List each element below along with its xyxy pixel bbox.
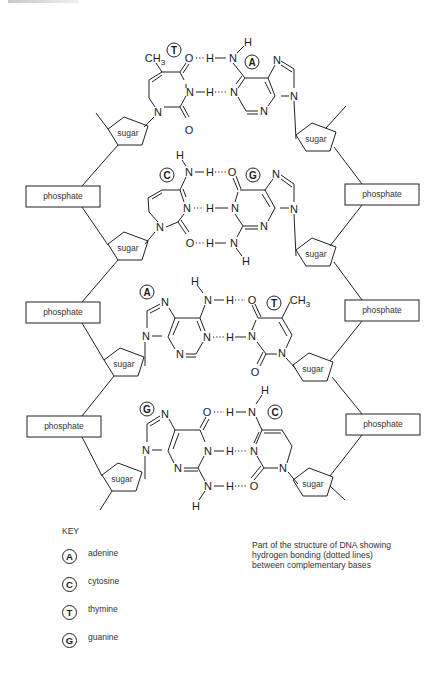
double-bond: [152, 75, 162, 82]
hydrogen-atom: H: [206, 202, 214, 214]
strand-link: [82, 260, 118, 302]
strand-link: [330, 435, 362, 476]
hydrogen-atom: H: [226, 406, 234, 418]
thymine-badge-icon: T: [267, 296, 281, 310]
bond-line: [268, 65, 275, 78]
bond-line: [281, 175, 294, 184]
badge-letter: C: [163, 170, 170, 181]
strand-stub: [330, 486, 345, 500]
bond-line: [265, 190, 275, 208]
methyl-group: CH3: [145, 52, 166, 67]
sugar-left-2: sugar: [108, 232, 148, 260]
oxygen-atom: O: [186, 237, 195, 249]
strand-stub: [326, 106, 346, 128]
key-label: cytosine: [88, 576, 119, 586]
cytosine-n3: N: [183, 202, 191, 214]
sugar-right-4: sugar: [293, 468, 333, 496]
strand-stub: [100, 491, 112, 510]
adenine-n9: N: [142, 330, 150, 342]
key-item-thymine: T thymine: [62, 598, 119, 626]
badge-letter: T: [171, 45, 177, 56]
guanine-n9: N: [290, 203, 298, 215]
glycosidic-bond: [288, 472, 298, 484]
cytosine-n3: N: [250, 445, 258, 457]
phosphate-left-1: phosphate: [26, 186, 100, 207]
hydrogen-atom: H: [192, 500, 200, 512]
base-pair-2: CGHNHONNOHHNHNNNN: [145, 149, 298, 267]
sugar-right-3: sugar: [293, 353, 333, 381]
badge-letter: G: [143, 404, 151, 415]
key-legend: KEY A adenine C cytosine T thymine G gua…: [62, 526, 119, 654]
sugar-left-4: sugar: [102, 463, 142, 491]
cytosine-n1: N: [156, 221, 164, 233]
amine-nitrogen: N: [248, 406, 256, 418]
adenine-n3: N: [176, 348, 184, 360]
glycosidic-bond: [145, 232, 155, 244]
hydrogen-atom: H: [176, 149, 184, 161]
n1-atom: N: [154, 106, 162, 118]
bond-line: [268, 208, 275, 221]
strand-link: [330, 205, 362, 246]
hydrogen-atom: H: [191, 275, 199, 287]
bond-line: [166, 222, 178, 227]
base-pair-3: ATHNHONNNNHNCH3NO: [140, 275, 311, 378]
bond-line: [168, 318, 175, 337]
methyl-group: CH3: [290, 294, 311, 309]
bond-line: [268, 96, 275, 106]
phosphate-label: phosphate: [43, 191, 83, 201]
bond-line: [235, 192, 238, 202]
cytosine-badge-icon: C: [268, 405, 282, 419]
carbonyl-bond: [254, 468, 264, 480]
strand-link: [330, 321, 362, 361]
oxygen-atom: O: [203, 406, 212, 418]
guanine-n7: N: [272, 168, 280, 180]
sugar-label: sugar: [305, 134, 326, 144]
bond-line: [147, 304, 160, 311]
cytosine-ring: [148, 177, 186, 222]
bond-line: [282, 430, 292, 446]
adenine-n3: N: [260, 105, 268, 117]
strand-link: [334, 147, 362, 184]
double-bond: [281, 179, 292, 187]
oxygen-atom: O: [185, 52, 194, 64]
adenine-n1: N: [203, 331, 211, 343]
adenine-n9: N: [290, 90, 298, 102]
sugar-label: sugar: [113, 359, 134, 369]
adenine-badge-icon: A: [140, 285, 154, 299]
methyl-label: CH3: [145, 52, 166, 67]
sugar-left-1: sugar: [108, 117, 148, 145]
bond-line: [237, 226, 243, 237]
bond-line: [237, 46, 244, 53]
oxygen-atom: O: [228, 166, 237, 178]
strand-link: [82, 376, 114, 416]
thymine-n3: N: [248, 330, 256, 342]
adenine-n1: N: [230, 86, 238, 98]
hydrogen-atom: H: [226, 331, 234, 343]
amine-nitrogen: N: [185, 166, 193, 178]
guanine-badge-icon: G: [246, 168, 260, 182]
strand-link: [82, 437, 102, 476]
phosphate-label: phosphate: [363, 419, 403, 429]
bond-line: [252, 320, 256, 330]
double-bond: [173, 321, 179, 335]
hydrogen-atom: H: [206, 166, 214, 178]
thymine-n1: N: [278, 347, 286, 359]
n3-atom: N: [186, 86, 194, 98]
badge-letter: A: [248, 57, 255, 68]
badge-letter: C: [271, 407, 278, 418]
phosphate-label: phosphate: [44, 421, 84, 431]
sugar-right-1: sugar: [296, 123, 336, 151]
sugar-label: sugar: [302, 479, 323, 489]
bond-line: [180, 190, 184, 202]
hydrogen-atom: H: [226, 294, 234, 306]
hydrogen-atom: H: [226, 480, 234, 492]
sugar-label: sugar: [117, 128, 138, 138]
double-bond: [281, 65, 292, 72]
oxygen-atom: O: [250, 480, 259, 492]
sugar-left-3: sugar: [104, 348, 144, 376]
hydrogen-atom: H: [226, 445, 234, 457]
key-item-cytosine: C cytosine: [62, 570, 119, 598]
phosphate-right-2: phosphate: [345, 300, 419, 321]
bond-line: [197, 285, 203, 293]
bond-line: [238, 97, 246, 111]
